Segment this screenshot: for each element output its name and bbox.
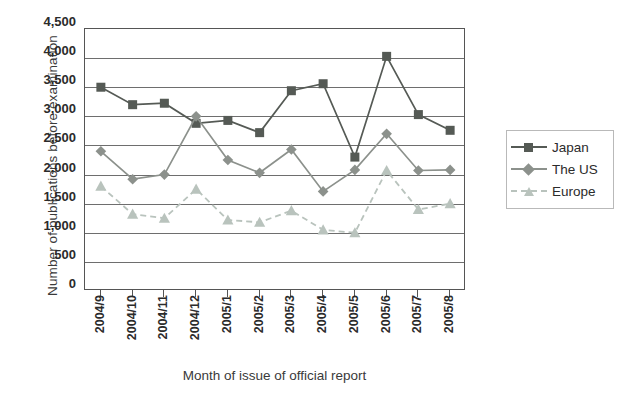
x-tick-label: 2005/2: [252, 295, 266, 365]
y-tick-label: 1,500: [24, 190, 76, 203]
legend-item-europe[interactable]: Europe: [511, 180, 609, 202]
x-tick-label: 2005/1: [220, 295, 234, 365]
legend-item-the-us[interactable]: The US: [511, 158, 609, 180]
data-point-marker: [159, 169, 170, 180]
legend-label: Europe: [547, 184, 596, 199]
y-tick-label: 2,500: [24, 131, 76, 144]
x-tick-label: 2005/4: [315, 295, 329, 365]
data-point-marker: [445, 165, 456, 176]
data-point-marker: [95, 181, 106, 191]
legend-item-japan[interactable]: Japan: [511, 136, 609, 158]
data-point-marker: [286, 205, 297, 215]
x-tick-label: 2005/3: [283, 295, 297, 365]
triangle-marker-icon: [524, 187, 534, 196]
y-tick-label: 500: [24, 248, 76, 261]
data-point-marker: [254, 217, 265, 227]
data-point-marker: [350, 153, 359, 162]
data-point-marker: [382, 52, 391, 61]
data-point-marker: [287, 86, 296, 95]
plot-area: [84, 28, 465, 290]
data-point-marker: [160, 99, 169, 108]
series-line: [101, 56, 450, 157]
legend-label: The US: [547, 162, 598, 177]
series-europe: [95, 165, 455, 237]
data-point-marker: [446, 126, 455, 135]
data-series-layer: [85, 29, 466, 291]
x-axis-title: Month of issue of official report: [84, 368, 465, 383]
y-tick-label: 4,500: [24, 15, 76, 28]
legend-key: [511, 140, 547, 154]
data-point-marker: [445, 198, 456, 208]
legend-key: [511, 162, 547, 176]
x-tick-label: 2005/6: [379, 295, 393, 365]
x-tick-label: 2005/8: [442, 295, 456, 365]
x-tick-label: 2005/5: [347, 295, 361, 365]
data-point-marker: [318, 224, 329, 234]
diamond-marker-icon: [522, 163, 535, 176]
data-point-marker: [414, 110, 423, 119]
y-tick-label: 3,000: [24, 102, 76, 115]
legend: JapanThe USEurope: [506, 130, 614, 209]
x-axis-ticks: [84, 290, 465, 297]
x-tick-label: 2004/11: [156, 295, 170, 365]
data-point-marker: [223, 116, 232, 125]
series-the-us: [96, 111, 456, 197]
y-tick-label: 3,500: [24, 73, 76, 86]
y-tick-label: 2,000: [24, 161, 76, 174]
legend-label: Japan: [547, 140, 589, 155]
x-tick-label: 2005/7: [410, 295, 424, 365]
data-point-marker: [96, 83, 105, 92]
x-axis-tick-labels: 2004/92004/102004/112004/122005/12005/22…: [84, 297, 465, 359]
series-line: [101, 116, 450, 191]
y-tick-label: 0: [24, 277, 76, 290]
data-point-marker: [255, 128, 264, 137]
y-tick-label: 4,000: [24, 44, 76, 57]
data-point-marker: [127, 209, 138, 219]
data-point-marker: [191, 184, 202, 194]
data-point-marker: [128, 100, 137, 109]
line-chart: Number of publications before examinatio…: [0, 0, 626, 407]
y-axis-tick-labels: 05001,0001,5002,0002,5003,0003,5004,0004…: [24, 21, 76, 297]
x-tick-label: 2004/10: [125, 295, 139, 365]
y-tick-label: 1,000: [24, 219, 76, 232]
data-point-marker: [319, 79, 328, 88]
data-point-marker: [381, 165, 392, 175]
x-tick-label: 2004/12: [188, 295, 202, 365]
legend-key: [511, 184, 547, 198]
series-japan: [96, 52, 454, 162]
square-marker-icon: [524, 143, 533, 152]
series-line: [101, 170, 450, 232]
x-tick-label: 2004/9: [93, 295, 107, 365]
